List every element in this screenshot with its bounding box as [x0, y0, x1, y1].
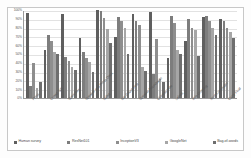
legend-item[interactable]: InceptionV3 — [116, 140, 139, 144]
y-axis-tick-label: 60% — [4, 45, 22, 48]
bar-chart-figure: 100%90%80%70%60%50%40%30%20%10%0% PressC… — [0, 0, 251, 158]
y-axis-tick-label: 100% — [4, 9, 22, 12]
legend-swatch-icon — [116, 141, 119, 144]
bar — [232, 38, 235, 98]
bar-group — [78, 11, 96, 98]
y-axis-tick-label: 50% — [4, 53, 22, 56]
legend-item[interactable]: ResNet101 — [67, 140, 89, 144]
bar-group — [60, 11, 78, 98]
legend-swatch-icon — [165, 141, 168, 144]
chart-legend: Human surveyResNet101InceptionV3GoogleNe… — [10, 137, 242, 147]
y-axis-tick-label: 10% — [4, 89, 22, 92]
y-axis-tick-label: 90% — [4, 18, 22, 21]
legend-label: ResNet101 — [72, 140, 90, 144]
bar — [215, 35, 218, 98]
legend-item[interactable]: Bag-of-words — [213, 140, 238, 144]
y-axis-tick-label: 70% — [4, 36, 22, 39]
legend-label: Bag-of-words — [217, 140, 238, 144]
bar-group — [113, 11, 131, 98]
legend-swatch-icon — [213, 141, 216, 144]
legend-label: GoogleNet — [170, 140, 187, 144]
legend-item[interactable]: Human survey — [14, 140, 41, 144]
bar-group — [25, 11, 43, 98]
legend-swatch-icon — [67, 141, 70, 144]
y-axis-tick-label: 0% — [4, 97, 22, 100]
legend-label: Human survey — [19, 140, 42, 144]
y-axis-tick-label: 20% — [4, 80, 22, 83]
bar-group — [183, 11, 201, 98]
y-axis-tick-label: 40% — [4, 62, 22, 65]
legend-swatch-icon — [14, 141, 17, 144]
legend-item[interactable]: GoogleNet — [165, 140, 186, 144]
y-axis-tick-label: 30% — [4, 71, 22, 74]
x-axis: PressCrowd TalkSpeechesSpeaker and Press… — [23, 99, 237, 133]
bar-group — [43, 11, 61, 98]
y-axis: 100%90%80%70%60%50%40%30%20%10%0% — [4, 7, 22, 103]
legend-label: InceptionV3 — [120, 140, 138, 144]
y-axis-tick-label: 80% — [4, 27, 22, 30]
